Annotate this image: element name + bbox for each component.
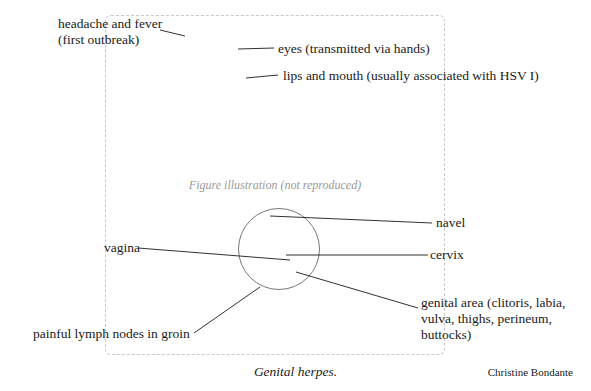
figure-placeholder: Figure illustration (not reproduced) (105, 15, 445, 355)
callout-circle (238, 208, 320, 290)
label-lymph-nodes: painful lymph nodes in groin (33, 326, 190, 342)
label-eyes: eyes (transmitted via hands) (278, 41, 430, 57)
figure-credit: Christine Bondante (488, 366, 573, 378)
label-genital-area: genital area (clitoris, labia, vulva, th… (421, 295, 565, 343)
label-navel: navel (436, 215, 465, 231)
figure-area: Figure illustration (not reproduced) (105, 15, 445, 355)
label-lips: lips and mouth (usually associated with … (283, 68, 539, 84)
label-headache: headache and fever (first outbreak) (58, 16, 162, 48)
label-vagina: vagina (104, 240, 140, 256)
label-cervix: cervix (430, 247, 464, 263)
